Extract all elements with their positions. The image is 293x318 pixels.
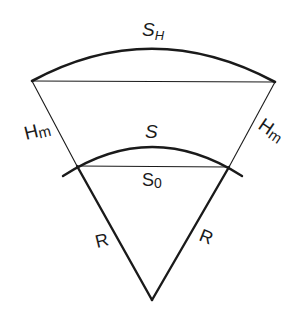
left-radius-line: [77, 166, 152, 300]
outer-chord: [32, 81, 275, 82]
left-radius-label: R: [93, 229, 110, 252]
inner-chord-label: S0: [142, 170, 162, 191]
outer-arc: [32, 49, 275, 82]
right-radius-label-group: R: [197, 225, 217, 248]
outer-arc-label: SH: [142, 19, 165, 43]
sector-geometry-diagram: SH S S0 Hm Hm R R: [0, 0, 293, 318]
inner-chord-label-sub: 0: [154, 175, 162, 191]
right-radius-label: R: [197, 225, 217, 248]
left-height-label-sub: m: [36, 122, 52, 142]
left-height-label-group: Hm: [22, 117, 53, 145]
inner-arc-label: S: [145, 121, 158, 142]
left-radius-label-group: R: [93, 229, 110, 252]
inner-chord-label-main: S: [142, 170, 154, 190]
inner-chord: [77, 166, 229, 167]
outer-arc-label-sub: H: [155, 28, 165, 43]
diagram-svg: SH S S0 Hm Hm R R: [0, 0, 293, 318]
outer-arc-label-main: S: [142, 19, 155, 40]
right-height-label: Hm: [254, 114, 288, 147]
right-radius-line: [152, 167, 229, 300]
right-height-label-group: Hm: [254, 114, 288, 147]
left-height-label: Hm: [22, 117, 53, 145]
